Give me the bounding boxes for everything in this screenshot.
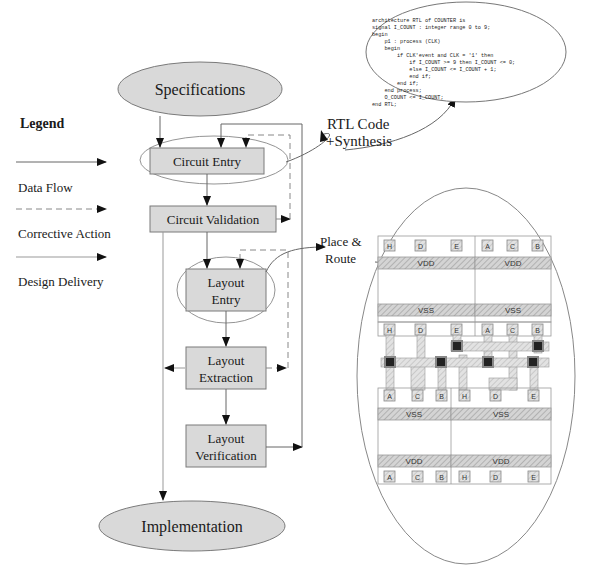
implementation-label: Implementation	[141, 518, 242, 536]
code-line: else I_COUNT <= I_COUNT + 1;	[372, 67, 497, 73]
circuit-entry-label: Circuit Entry	[173, 154, 242, 169]
pin-label: D	[493, 393, 498, 400]
pin-label: H	[387, 327, 392, 334]
legend-data-flow-label: Data Flow	[18, 180, 73, 195]
layout-extraction-line1: Layout	[208, 353, 245, 368]
vss-label: VSS	[418, 306, 434, 315]
pin-label: B	[535, 243, 540, 250]
rtl-code-bubble: architecture RTL of COUNTER is signal I_…	[366, 2, 566, 108]
code-line: end if;	[372, 74, 431, 80]
legend: Legend Data Flow Corrective Action Desig…	[16, 116, 111, 289]
via-icon	[528, 357, 538, 367]
curve-layout-entry-to-place-route	[266, 247, 325, 272]
pin-label: D	[418, 327, 423, 334]
pin-label: A	[485, 243, 490, 250]
code-line: architecture RTL of COUNTER is	[372, 18, 465, 24]
via-icon	[436, 357, 446, 367]
code-line: p1 : process (CLK)	[372, 39, 441, 45]
pin-label: A	[387, 393, 392, 400]
vss-label: VSS	[505, 306, 521, 315]
circuit-validation-label: Circuit Validation	[167, 212, 260, 227]
legend-design-delivery-label: Design Delivery	[18, 274, 104, 289]
layout-entry-line2: Entry	[212, 292, 241, 307]
layout-verification-line1: Layout	[208, 431, 245, 446]
vdd-label: VDD	[505, 259, 522, 268]
pin-label: A	[387, 474, 392, 481]
design-flow-diagram: Legend Data Flow Corrective Action Desig…	[0, 0, 600, 568]
via-icon	[452, 341, 462, 351]
code-line: signal I_COUNT : integer range 0 to 9;	[372, 25, 490, 31]
code-line: begin	[372, 32, 388, 38]
vdd-label: VDD	[406, 457, 423, 466]
vss-label: VSS	[406, 410, 422, 419]
place-route-line2: Route	[325, 251, 356, 266]
place-route-line1: Place &	[320, 234, 362, 249]
code-line: begin	[372, 46, 400, 52]
pin-label: C	[510, 243, 515, 250]
layout-extraction-line2: Extraction	[199, 370, 254, 385]
code-line: if I_COUNT >= 9 then I_COUNT <= 0;	[372, 60, 515, 66]
pin-label: D	[493, 474, 498, 481]
via-icon	[385, 357, 395, 367]
code-line: end process;	[372, 88, 422, 94]
pin-label: E	[531, 474, 536, 481]
rtl-label-line2: +Synthesis	[326, 133, 392, 149]
pin-label: H	[462, 474, 467, 481]
layout-verification-line2: Verification	[195, 448, 257, 463]
pin-label: B	[439, 474, 444, 481]
code-line: end RTL;	[372, 102, 397, 108]
vss-label: VSS	[493, 410, 509, 419]
layout-entry-line1: Layout	[208, 275, 245, 290]
legend-corrective-action-label: Corrective Action	[18, 226, 111, 241]
pin-label: H	[462, 393, 467, 400]
vdd-label: VDD	[418, 259, 435, 268]
pin-label: H	[387, 243, 392, 250]
via-icon	[533, 341, 543, 351]
pin-label: B	[535, 327, 540, 334]
rtl-bubble-outline	[366, 2, 566, 102]
specifications-label: Specifications	[155, 81, 246, 99]
pin-label: A	[485, 327, 490, 334]
code-line: O_COUNT <= I_COUNT;	[372, 95, 444, 101]
vdd-label: VDD	[493, 457, 510, 466]
rtl-label-line1: RTL Code	[327, 116, 390, 132]
layout-bubble: VDD VDD VSS VSS H D E A C B	[357, 188, 575, 564]
pin-label: D	[418, 243, 423, 250]
pin-label: C	[415, 474, 420, 481]
pin-label: E	[454, 327, 459, 334]
pin-label: C	[510, 327, 515, 334]
code-line: end if;	[372, 81, 419, 87]
legend-title: Legend	[20, 116, 65, 131]
pin-label: E	[454, 243, 459, 250]
pin-label: C	[415, 393, 420, 400]
pin-label: B	[439, 393, 444, 400]
code-line: if CLK'event and CLK = '1' then	[372, 53, 493, 59]
via-icon	[483, 357, 493, 367]
pin-label: E	[531, 393, 536, 400]
